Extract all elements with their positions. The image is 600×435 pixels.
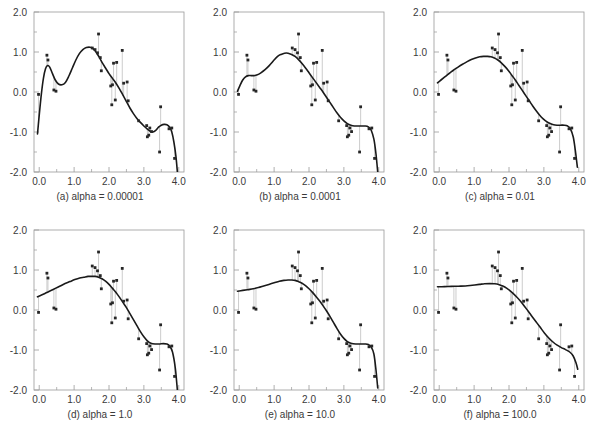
data-point [521,49,524,52]
data-point [291,47,294,50]
y-tick-label: 0.0 [13,87,27,98]
data-point [255,90,258,93]
data-point [510,103,513,106]
data-layer [437,33,577,168]
data-point [515,279,518,282]
fitted-curve [237,53,377,172]
data-point [347,352,350,355]
x-tick-label: 3.0 [137,176,151,187]
data-point [96,51,99,54]
data-point [300,69,303,72]
data-point [496,269,499,272]
data-point [550,130,553,133]
x-tick-label: 0.0 [32,394,46,405]
y-tick-label: -2.0 [10,385,28,396]
data-point [91,47,94,50]
data-point [491,47,494,50]
x-tick-label: 1.0 [467,176,481,187]
y-tick-label: 1.0 [13,265,27,276]
data-point [114,317,117,320]
residual-stems [439,252,575,376]
data-point [322,300,325,303]
data-point [345,124,348,127]
x-tick-label: 0.0 [432,176,446,187]
data-point [100,287,103,290]
data-point [122,82,125,85]
data-point [96,269,99,272]
data-point [150,348,153,351]
y-tick-label: -1.0 [10,127,28,138]
data-point [497,33,500,36]
data-point [111,301,114,304]
data-point [511,83,514,86]
data-point [370,345,373,348]
data-point [47,59,50,62]
data-point [559,323,562,326]
panel-b: 0.01.02.03.04.02.01.00.0-1.0-2.0(b) alph… [200,0,400,215]
data-layer [437,251,578,378]
x-tick-label: 3.0 [337,394,351,405]
data-point [150,130,153,133]
panel-caption-d: (d) alpha = 1.0 [0,409,200,420]
y-tick-label: 2.0 [13,225,27,236]
data-point [300,287,303,290]
scatter-points [437,251,576,378]
data-point [37,93,40,96]
data-point [522,82,525,85]
data-point [511,301,514,304]
scatter-points [437,33,576,160]
data-point [497,251,500,254]
data-point [296,269,299,272]
panel-caption-f: (f) alpha = 100.0 [400,409,600,420]
data-point [237,311,240,314]
data-point [46,272,49,275]
data-point [347,134,350,137]
data-point [255,308,258,311]
data-point [46,54,49,57]
x-tick-label: 3.0 [337,176,351,187]
data-point [573,375,576,378]
x-tick-label: 1.0 [67,394,81,405]
x-tick-label: 2.0 [302,176,316,187]
data-point [373,157,376,160]
x-tick-label: 0.0 [32,176,46,187]
data-layer [37,33,177,172]
data-point [514,317,517,320]
data-point [321,267,324,270]
plot-area-b: 0.01.02.03.04.02.01.00.0-1.0-2.0 [200,0,400,215]
data-point [122,300,125,303]
data-point [350,348,353,351]
x-tick-label: 4.0 [372,394,386,405]
data-point [114,99,117,102]
data-point [446,54,449,57]
figure-root: 0.01.02.03.04.02.01.00.0-1.0-2.0(a) alph… [0,0,600,435]
data-point [368,345,371,348]
data-point [359,105,362,108]
y-tick-label: -2.0 [410,167,428,178]
x-tick-label: 4.0 [172,394,186,405]
y-tick-label: -2.0 [10,167,28,178]
data-point [170,127,173,130]
data-point [55,308,58,311]
y-tick-label: -1.0 [210,127,228,138]
plot-area-d: 0.01.02.03.04.02.01.00.0-1.0-2.0 [0,218,200,433]
data-point [314,317,317,320]
y-tick-label: 0.0 [413,305,427,316]
data-point [121,267,124,270]
data-point [522,300,525,303]
data-point [337,337,340,340]
data-point [526,81,529,84]
data-point [127,317,130,320]
data-point [294,266,297,269]
data-point [247,277,250,280]
data-point [496,51,499,54]
data-layer [237,33,378,172]
y-tick-label: 2.0 [213,7,227,18]
y-tick-label: -2.0 [210,385,228,396]
residual-stems [439,34,575,158]
fitted-curve [237,280,377,388]
data-point [168,345,171,348]
scatter-points [237,33,376,160]
data-point [315,61,318,64]
data-point [311,301,314,304]
